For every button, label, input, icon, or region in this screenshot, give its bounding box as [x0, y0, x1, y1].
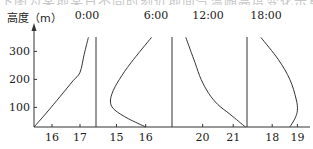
x-tick-label: 16 — [139, 131, 153, 144]
x-tick-label: 15 — [109, 131, 123, 144]
panel-title-000: 0:00 — [75, 9, 100, 22]
y-axis-arrow-icon — [32, 23, 37, 31]
y-tick-label: 100 — [9, 101, 30, 114]
panel-title-1800: 18:00 — [250, 9, 282, 22]
panel-title-1200: 12:00 — [192, 9, 224, 22]
temperature-curve-1800 — [261, 37, 298, 127]
x-tick-label: 19 — [290, 131, 304, 144]
x-tick-label: 17 — [73, 131, 87, 144]
x-tick-label: 18 — [265, 131, 279, 144]
y-tick-label: 300 — [9, 45, 30, 58]
temperature-curve-1200 — [186, 37, 246, 127]
x-tick-label: 16 — [45, 131, 59, 144]
temperature-curve-000 — [34, 37, 88, 127]
panel-title-600: 6:00 — [144, 9, 169, 22]
x-tick-label: 20 — [196, 131, 210, 144]
temperature-curve-600 — [110, 37, 151, 127]
x-tick-label: 21 — [226, 131, 240, 144]
temperature-profile-chart: 1002003000:0016176:00151612:00202118:001… — [0, 0, 313, 149]
y-tick-label: 200 — [9, 73, 30, 86]
